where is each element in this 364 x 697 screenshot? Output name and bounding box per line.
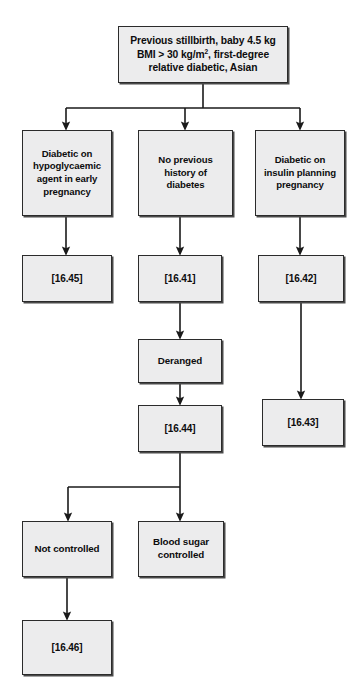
risk-factors-line-2-post: , first-degree xyxy=(208,49,269,60)
branch-mid-line-2: history of xyxy=(164,167,207,178)
node-reference-16-46: [16.46] xyxy=(22,620,112,675)
branch-mid-line-1: No previous xyxy=(158,154,212,165)
node-reference-16-44: [16.44] xyxy=(138,405,222,452)
risk-factors-line-2-pre: BMI > 30 kg/m xyxy=(137,49,205,60)
node-reference-16-45: [16.45] xyxy=(22,255,112,302)
blood-sugar-controlled-line-2: controlled xyxy=(158,549,204,560)
node-diabetic-hypoglycaemic-agent: Diabetic on hypoglycaemic agent in early… xyxy=(22,130,112,216)
node-reference-16-43: [16.43] xyxy=(262,399,344,446)
node-diabetic-insulin-planning-pregnancy: Diabetic on insulin planning pregnancy xyxy=(255,130,345,216)
reference-16-45-label: [16.45] xyxy=(27,272,107,285)
branch-right-line-3: pregnancy xyxy=(276,179,324,190)
blood-sugar-controlled-line-1: Blood sugar xyxy=(153,536,209,547)
branch-left-line-3: agent in early xyxy=(37,173,97,184)
reference-16-41-label: [16.41] xyxy=(143,272,217,285)
risk-factors-line-1: Previous stillbirth, baby 4.5 kg xyxy=(130,35,276,46)
branch-left-line-1: Diabetic on xyxy=(42,148,93,159)
node-reference-16-41: [16.41] xyxy=(138,255,222,302)
branch-mid-line-3: diabetes xyxy=(166,179,204,190)
node-reference-16-42: [16.42] xyxy=(258,255,344,302)
branch-left-line-2: hypoglycaemic xyxy=(33,160,101,171)
node-no-previous-history-diabetes: No previous history of diabetes xyxy=(138,130,233,216)
node-not-controlled: Not controlled xyxy=(22,521,112,577)
branch-right-line-1: Diabetic on xyxy=(275,154,326,165)
reference-16-44-label: [16.44] xyxy=(143,422,217,435)
flowchart-canvas: Previous stillbirth, baby 4.5 kg BMI > 3… xyxy=(0,0,364,697)
reference-16-42-label: [16.42] xyxy=(263,272,339,285)
node-deranged: Deranged xyxy=(138,339,222,383)
node-risk-factors: Previous stillbirth, baby 4.5 kg BMI > 3… xyxy=(118,26,288,83)
deranged-label: Deranged xyxy=(143,355,217,368)
not-controlled-label: Not controlled xyxy=(27,543,107,556)
branch-left-line-4: pregnancy xyxy=(43,186,91,197)
branch-right-line-2: insulin planning xyxy=(264,167,336,178)
risk-factors-line-3: relative diabetic, Asian xyxy=(149,62,258,73)
node-blood-sugar-controlled: Blood sugar controlled xyxy=(138,521,224,577)
reference-16-46-label: [16.46] xyxy=(27,641,107,654)
reference-16-43-label: [16.43] xyxy=(267,416,339,429)
